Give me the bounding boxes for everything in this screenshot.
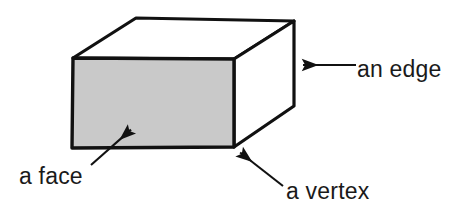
cuboid-front-face: [72, 58, 234, 148]
leader-arrow-vertex: [240, 152, 283, 186]
label-an-edge: an edge: [357, 56, 442, 82]
figure-canvas: an edge a face a vertex: [0, 0, 465, 219]
cuboid-diagram: an edge a face a vertex: [0, 0, 465, 219]
label-a-face: a face: [19, 163, 83, 189]
label-a-vertex: a vertex: [286, 178, 370, 204]
